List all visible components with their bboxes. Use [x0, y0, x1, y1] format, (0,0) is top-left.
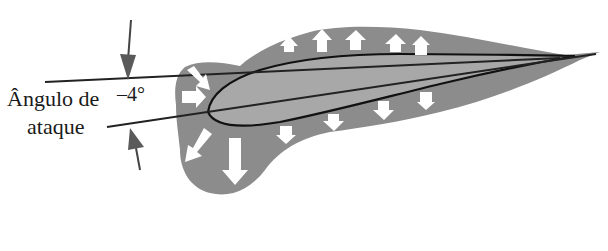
diagram-graphic — [0, 0, 608, 251]
airfoil-diagram: Ângulo de ataque –4° — [0, 0, 608, 251]
arrow-down-icon — [120, 54, 136, 80]
angle-arrow-top — [120, 20, 136, 80]
angle-of-attack-label-line2: ataque — [27, 114, 84, 140]
angle-value-label: –4° — [117, 83, 145, 106]
angle-of-attack-label-line1: Ângulo de — [7, 86, 99, 112]
arrow-up-icon — [128, 128, 144, 150]
angle-arrow-bottom — [128, 128, 144, 170]
